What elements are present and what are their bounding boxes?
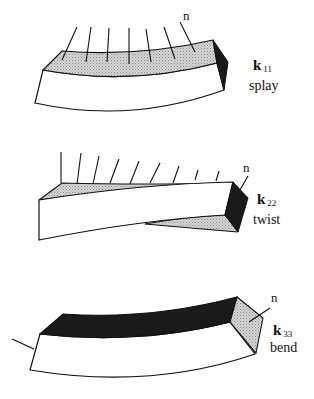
splay-mode-label: splay	[249, 78, 279, 93]
elastic-modes-diagram: n k11 splay n k22 twist	[0, 0, 314, 399]
bend-panel: n k33 bend	[12, 290, 297, 377]
twist-director-label: n	[243, 160, 250, 175]
splay-constant-label: k11	[253, 57, 272, 74]
bend-mode-label: bend	[270, 340, 297, 355]
bend-constant-label: k33	[273, 322, 293, 339]
twist-panel: n k22 twist	[39, 152, 280, 240]
splay-director-label: n	[183, 8, 190, 23]
twist-constant-label: k22	[257, 191, 276, 208]
bend-director-label: n	[271, 290, 278, 305]
twist-mode-label: twist	[253, 212, 280, 227]
splay-panel: n k11 splay	[35, 8, 279, 111]
